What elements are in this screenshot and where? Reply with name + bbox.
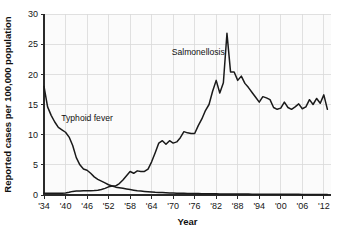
x-tick-label: '46 — [81, 201, 93, 211]
x-tick-label: '52 — [103, 201, 115, 211]
x-tick-label: '88 — [232, 201, 244, 211]
annotation-typhoid-fever: Typhoid fever — [61, 113, 113, 123]
y-tick-label: 20 — [28, 70, 38, 80]
line-chart: '34'40'46'52'58'64'70'76'82'88'94'00'06'… — [0, 0, 345, 238]
x-tick-label: '76 — [189, 201, 201, 211]
x-tick-label: '34 — [38, 201, 50, 211]
x-tick-label: '12 — [318, 201, 330, 211]
y-tick-label: 15 — [28, 100, 38, 110]
y-tick-label: 25 — [28, 39, 38, 49]
x-tick-label: '64 — [146, 201, 158, 211]
x-tick-label: '58 — [124, 201, 136, 211]
x-tick-label: '00 — [275, 201, 287, 211]
y-tick-label: 30 — [28, 9, 38, 19]
x-tick-label: '06 — [296, 201, 308, 211]
y-axis-title: Reported cases per 100,000 population — [2, 16, 13, 193]
x-tick-label: '70 — [167, 201, 179, 211]
x-tick-label: '94 — [253, 201, 265, 211]
annotation-salmonellosis: Salmonellosis — [172, 47, 225, 57]
y-tick-label: 10 — [28, 130, 38, 140]
x-tick-label: '82 — [210, 201, 222, 211]
chart-figure: '34'40'46'52'58'64'70'76'82'88'94'00'06'… — [0, 0, 345, 238]
y-tick-label: 0 — [33, 190, 38, 200]
x-axis-title: Year — [177, 216, 197, 227]
x-tick-label: '40 — [60, 201, 72, 211]
y-tick-label: 5 — [33, 160, 38, 170]
